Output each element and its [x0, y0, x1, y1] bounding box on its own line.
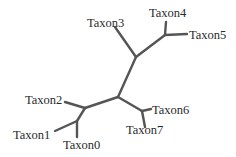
- taxon-labels: Taxon0 Taxon1 Taxon2 Taxon3 Taxon4 Taxon…: [13, 6, 226, 152]
- taxon-label-5: Taxon5: [189, 28, 226, 42]
- branch-n_45-t5: [165, 34, 187, 35]
- branch-n_45-t4: [165, 22, 166, 35]
- tree-branches: [55, 22, 187, 137]
- taxon-label-4: Taxon4: [149, 6, 187, 20]
- branch-n_left-n_01: [77, 108, 85, 121]
- branch-n_top-n_45: [136, 35, 165, 57]
- branch-n_mid-n_top: [118, 57, 136, 97]
- taxon-label-0: Taxon0: [63, 138, 100, 152]
- branch-n_mid-n_67: [118, 97, 142, 111]
- branch-n_mid-n_left: [85, 97, 118, 108]
- branch-n_67-t6: [142, 109, 151, 111]
- branch-n_01-t1: [55, 121, 77, 131]
- taxon-label-1: Taxon1: [13, 128, 50, 142]
- branch-n_top-t3: [115, 27, 136, 57]
- branch-n_left-t2: [65, 102, 85, 108]
- phylogenetic-tree: Taxon0 Taxon1 Taxon2 Taxon3 Taxon4 Taxon…: [0, 0, 236, 157]
- taxon-label-2: Taxon2: [25, 93, 62, 107]
- taxon-label-7: Taxon7: [126, 123, 163, 137]
- taxon-label-3: Taxon3: [87, 16, 124, 30]
- taxon-label-6: Taxon6: [152, 103, 189, 117]
